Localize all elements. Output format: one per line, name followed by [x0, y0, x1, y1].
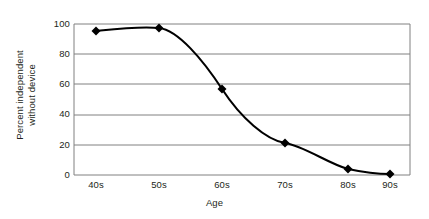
- chart-figure: Percent independent without device 100 8…: [0, 0, 429, 219]
- data-point-marker: [155, 24, 164, 33]
- x-tick-label: 80s: [328, 180, 368, 190]
- x-tick-label: 50s: [139, 180, 179, 190]
- x-tick-label: 90s: [370, 180, 410, 190]
- x-tick-label: 60s: [202, 180, 242, 190]
- data-point-marker: [92, 27, 101, 36]
- x-axis-label: Age: [0, 197, 429, 208]
- x-tick-label: 40s: [76, 180, 116, 190]
- x-tick-label: 70s: [265, 180, 305, 190]
- axis-frame: [74, 24, 410, 175]
- grid-lines: [74, 24, 410, 145]
- data-point-marker: [344, 165, 353, 174]
- x-axis-tick-labels: 40s 50s 60s 70s 80s 90s: [0, 180, 429, 192]
- data-point-marker: [386, 170, 395, 179]
- data-markers: [92, 24, 395, 179]
- data-line: [96, 27, 390, 174]
- data-point-marker: [281, 139, 290, 148]
